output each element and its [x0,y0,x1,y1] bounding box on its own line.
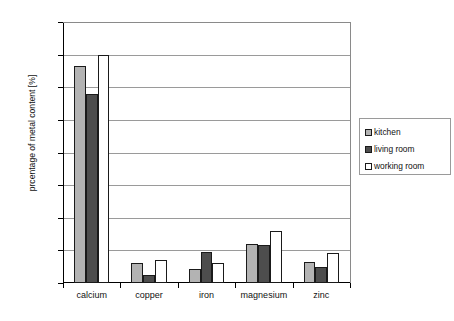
x-axis-tick [178,283,179,288]
plot-frame-top [63,22,351,23]
bar-iron-working-room [212,263,224,283]
legend-label: working room [374,162,424,171]
x-axis-tick [235,283,236,288]
x-axis-category-label: iron [178,290,235,300]
legend-item-living-room: living room [365,141,446,158]
legend-item-working-room: working room [365,158,446,175]
y-axis-tick [58,250,63,251]
legend-swatch-icon [365,146,372,153]
bar-magnesium-living-room [258,245,270,283]
chart-legend: kitchenliving roomworking room [359,118,451,175]
x-axis-tick [63,283,64,288]
x-axis-tick [293,283,294,288]
x-axis-category-label: zinc [293,290,350,300]
y-axis-tick [58,185,63,186]
bar-copper-kitchen [131,263,143,283]
bar-iron-kitchen [189,269,201,283]
y-axis-tick [58,120,63,121]
bar-copper-working-room [155,260,167,283]
plot-frame-right [350,22,351,284]
bar-iron-living-room [201,252,213,283]
x-axis-tick [120,283,121,288]
y-axis-tick [58,87,63,88]
bar-calcium-living-room [86,94,98,283]
y-axis-tick [58,22,63,23]
legend-item-kitchen: kitchen [365,124,446,141]
y-axis-tick [58,218,63,219]
chart-container: prcentage of metal content [%] 00.511.52… [0,0,454,321]
legend-label: kitchen [374,128,401,137]
legend-label: living room [374,145,415,154]
x-axis-category-label: copper [120,290,177,300]
y-axis-tick [58,55,63,56]
x-axis-category-label: calcium [63,290,120,300]
y-axis-tick [58,153,63,154]
bar-calcium-kitchen [74,66,86,283]
bar-zinc-living-room [315,267,327,283]
legend-swatch-icon [365,163,372,170]
bar-magnesium-working-room [270,231,282,283]
bar-magnesium-kitchen [246,244,258,283]
legend-swatch-icon [365,129,372,136]
bar-zinc-working-room [327,253,339,283]
bar-copper-living-room [143,275,155,283]
x-axis-category-label: magnesium [235,290,292,300]
bar-calcium-working-room [98,55,110,283]
x-axis-tick [350,283,351,288]
y-axis-label: prcentage of metal content [%] [27,33,37,233]
bar-zinc-kitchen [304,262,316,283]
